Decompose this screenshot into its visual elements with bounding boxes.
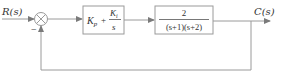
input-label: R(s) <box>1 6 23 17</box>
feedback-path <box>41 21 251 70</box>
plant-denominator: (s+1)(s+2) <box>166 22 202 32</box>
plus-sign: + <box>101 15 106 25</box>
minus-sign: − <box>31 24 37 35</box>
ki-denominator: s <box>112 22 116 32</box>
plant-block: 2 (s+1)(s+2) <box>155 6 213 34</box>
output-label: C(s) <box>254 6 275 17</box>
pi-controller-block: Kp + Ki s <box>83 6 124 34</box>
block-diagram: R(s) − Kp + Ki s 2 (s+1)(s+2) C(s) <box>0 0 281 76</box>
plant-numerator: 2 <box>182 8 187 18</box>
